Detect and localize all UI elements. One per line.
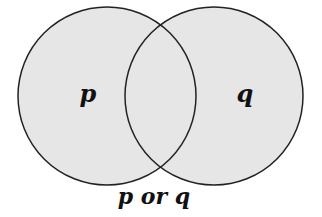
- venn-diagram: p q p or q: [0, 0, 322, 217]
- set-q-label: q: [237, 79, 254, 108]
- set-p-label: p: [80, 79, 97, 108]
- set-q-fill: [125, 7, 303, 185]
- caption: p or q: [118, 183, 190, 209]
- union-fill: [18, 7, 303, 185]
